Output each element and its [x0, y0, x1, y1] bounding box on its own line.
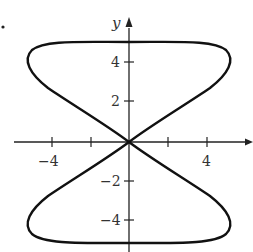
- y-axis-arrow-icon: [126, 17, 133, 27]
- marker-dot: [1, 25, 4, 28]
- figure-eight-plot: −4 4 4 2 −2 −4 y: [0, 0, 253, 252]
- y-axis-label: y: [111, 14, 121, 32]
- y-tick-label-2: 2: [111, 93, 120, 109]
- y-tick-label-neg2: −2: [100, 173, 121, 189]
- y-tick-label-4: 4: [111, 54, 120, 70]
- x-tick-label-4: 4: [202, 153, 211, 169]
- y-tick-label-neg4: −4: [100, 212, 121, 228]
- x-tick-label-neg4: −4: [38, 153, 59, 169]
- x-axis-arrow-icon: [245, 139, 253, 146]
